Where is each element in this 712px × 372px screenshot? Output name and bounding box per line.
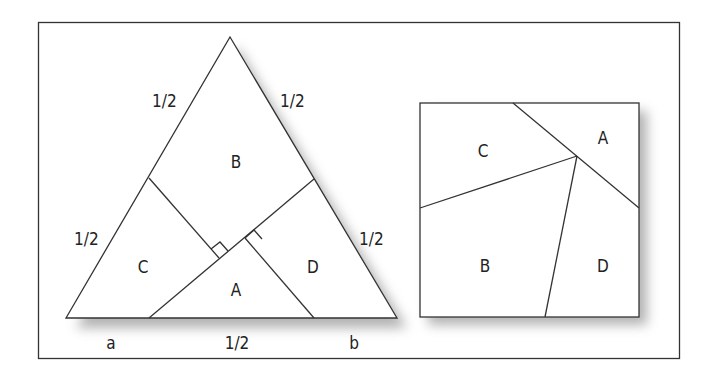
label-left-lower: 1/2	[74, 229, 99, 249]
label-right-lower: 1/2	[359, 229, 384, 249]
label-left-upper: 1/2	[152, 91, 177, 111]
square-piece-b: B	[480, 256, 491, 276]
triangle-piece-a: A	[231, 280, 242, 300]
label-base-a: a	[106, 333, 115, 353]
square-piece-a: A	[598, 128, 609, 148]
triangle-piece-d: D	[307, 257, 319, 277]
label-base-half: 1/2	[225, 333, 250, 353]
label-base-b: b	[349, 333, 359, 353]
label-right-upper: 1/2	[280, 91, 305, 111]
square-piece-c: C	[478, 141, 489, 161]
triangle-piece-b: B	[231, 152, 242, 172]
dissection-diagram: 1/2 1/2 1/2 1/2 a 1/2 b B C A D C A B D	[0, 0, 712, 372]
square-piece-d: D	[597, 256, 609, 276]
triangle-piece-c: C	[138, 257, 149, 277]
